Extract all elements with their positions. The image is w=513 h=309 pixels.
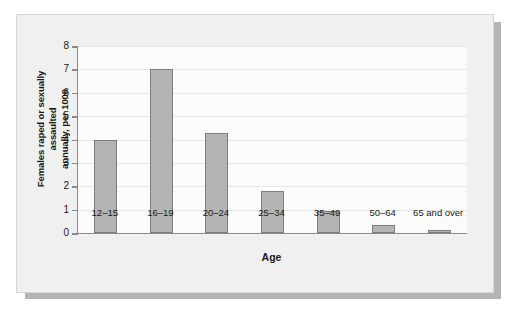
y-axis-tick-mark [72,163,78,165]
x-axis-tick-label: 65 and over [406,207,470,219]
y-axis-tick-label: 5 [63,111,69,121]
gridline [78,93,467,94]
bar[interactable] [428,230,451,234]
x-axis-tick-label: 20–24 [184,207,248,219]
x-axis-tick-label: 50–64 [351,207,415,219]
y-axis-tick-mark [72,93,78,95]
y-axis-tick-mark [72,140,78,142]
y-axis-tick-label: 2 [63,181,69,191]
bar-chart: Females raped or sexually assaulted annu… [17,15,495,294]
gridline [78,140,467,141]
x-axis-title: Age [77,251,466,263]
y-axis-tick-mark [72,46,78,48]
y-axis-tick-mark [72,233,78,235]
x-axis-tick-label: 12–15 [73,207,137,219]
figure-card: Females raped or sexually assaulted annu… [16,14,494,293]
x-axis-tick-label: 16–19 [128,207,192,219]
y-axis-tick-mark [72,186,78,188]
y-axis-tick-mark [72,69,78,71]
y-axis-tick-label: 6 [63,88,69,98]
y-axis-tick-label: 3 [63,158,69,168]
bar[interactable] [372,225,395,233]
gridline [78,163,467,164]
gridline [78,116,467,117]
gridline [78,69,467,70]
x-axis-tick-label: 25–34 [240,207,304,219]
gridline [78,46,467,47]
y-axis-tick-label: 4 [63,135,69,145]
y-axis-title-line-1: Females raped or sexually assaulted [35,49,59,209]
y-axis-tick-label: 0 [63,228,69,238]
gridline [78,186,467,187]
plot-area: 012345678 [77,46,467,234]
y-axis-tick-mark [72,116,78,118]
y-axis-tick-label: 8 [63,41,69,51]
y-axis-tick-label: 7 [63,64,69,74]
y-axis-tick-label: 1 [63,205,69,215]
x-axis-tick-label: 35–49 [295,207,359,219]
